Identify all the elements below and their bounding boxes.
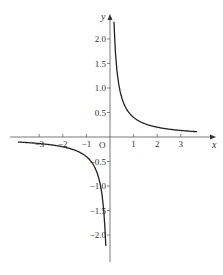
hyperbola-chart: xyO −3−2−11232.01.51.00.5−0.5−1.0−1.5−2.… xyxy=(0,0,223,275)
x-tick-label: 3 xyxy=(179,139,184,149)
y-tick-label: 1.0 xyxy=(95,83,107,93)
x-tick-label: −1 xyxy=(82,139,92,149)
y-tick-label: −2.0 xyxy=(90,230,107,240)
axes: xyO xyxy=(10,11,217,262)
y-tick-label: 1.5 xyxy=(95,59,107,69)
x-tick-label: 2 xyxy=(155,139,160,149)
y-axis-label: y xyxy=(100,11,106,22)
x-axis-label: x xyxy=(211,139,217,150)
curves xyxy=(18,22,197,246)
origin-label: O xyxy=(99,140,106,150)
y-axis-arrow-icon xyxy=(108,14,113,20)
y-tick-label: 0.5 xyxy=(95,108,107,118)
y-tick-label: 2.0 xyxy=(95,34,107,44)
y-tick-label: −0.5 xyxy=(90,157,107,167)
curve-branch-positive xyxy=(114,22,197,132)
y-tick-label: −1.0 xyxy=(90,181,107,191)
x-tick-label: 1 xyxy=(131,139,136,149)
